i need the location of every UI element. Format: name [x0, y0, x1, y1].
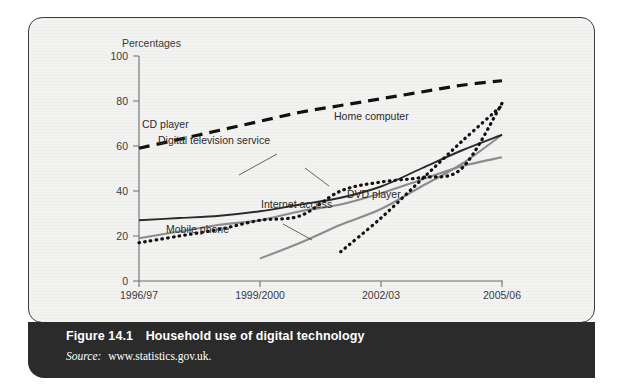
y-tick-label-60: 60: [116, 140, 128, 152]
x-tick-label-3: 2002/03: [362, 289, 400, 301]
x-axis-ticks: 1996/97 1999/2000 2002/03 2005/06: [120, 281, 521, 301]
chart-panel: Percentages 100 80 60 40 20 0: [28, 17, 595, 323]
source-label: Source:: [66, 350, 101, 362]
y-tick-label-80: 80: [116, 95, 128, 107]
x-tick-label-2: 1999/2000: [235, 289, 285, 301]
y-tick-label-20: 20: [116, 230, 128, 242]
annotation-digital-television-service: Digital television service: [158, 134, 270, 146]
annotation-leaders: [239, 154, 329, 240]
y-tick-label-100: 100: [110, 50, 128, 62]
series-dvd-player: [341, 106, 502, 252]
y-axis-title: Percentages: [122, 37, 181, 49]
figure-caption-bar: Figure 14.1 Household use of digital tec…: [28, 322, 595, 378]
annotation-home-computer: Home computer: [334, 110, 409, 122]
figure-title: Household use of digital technology: [146, 329, 365, 343]
annotation-internet-access: Internet access: [261, 198, 332, 210]
figure-source-row: Source: www.statistics.gov.uk.: [66, 349, 595, 363]
y-tick-label-0: 0: [122, 275, 128, 287]
annotation-dvd-player: DVD player: [347, 188, 401, 200]
figure-number: Figure 14.1: [66, 329, 133, 343]
figure-caption-title-row: Figure 14.1 Household use of digital tec…: [66, 329, 595, 344]
figure-container: Percentages 100 80 60 40 20 0: [0, 0, 625, 391]
source-value: www.statistics.gov.uk.: [108, 350, 211, 362]
x-tick-label-4: 2005/06: [483, 289, 521, 301]
annotation-mobile-phone: Mobile phone: [166, 223, 229, 235]
y-axis-ticks: 100 80 60 40 20 0: [110, 50, 139, 287]
annotation-cd-player: CD player: [142, 118, 189, 130]
line-chart: Percentages 100 80 60 40 20 0: [29, 18, 595, 323]
y-tick-label-40: 40: [116, 185, 128, 197]
x-tick-label-1: 1996/97: [120, 289, 158, 301]
